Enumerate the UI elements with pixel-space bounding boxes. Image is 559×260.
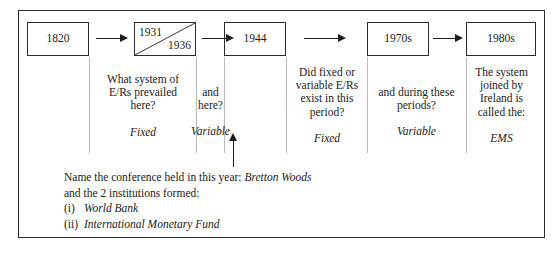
prompt-item-2: (ii)International Monetary Fund bbox=[64, 217, 484, 233]
column-1820-1931-question: What system of E/Rs prevailed here? bbox=[91, 73, 195, 113]
arrow-shaft bbox=[96, 38, 120, 39]
column-divider-1 bbox=[89, 57, 90, 153]
prompt-item-1-answer: World Bank bbox=[84, 202, 138, 214]
box-1931-1936: 1931 1936 bbox=[134, 22, 196, 56]
prompt-line-1-answer: Bretton Woods bbox=[244, 171, 311, 183]
box-1820-label: 1820 bbox=[28, 33, 88, 45]
prompt-item-1: (i)World Bank bbox=[64, 201, 484, 217]
worksheet-frame: 1820 1931 1936 1944 1970s 1980s bbox=[18, 10, 545, 238]
bretton-woods-prompt: Name the conference held in this year: B… bbox=[64, 170, 484, 232]
box-1944-label: 1944 bbox=[225, 33, 285, 45]
box-1820: 1820 bbox=[27, 22, 89, 56]
arrow-1970s-to-1980s bbox=[433, 34, 463, 43]
arrow-pointing-to-1944 bbox=[229, 133, 238, 167]
column-1931-1936-answer: Variable bbox=[189, 125, 232, 138]
arrow-1944-to-1970s bbox=[304, 34, 346, 43]
column-divider-4 bbox=[286, 57, 287, 153]
column-1820-1931: What system of E/Rs prevailed here? Fixe… bbox=[91, 73, 195, 139]
column-1944-1970-question: Did fixed or variable E/Rs exist in this… bbox=[288, 66, 366, 119]
arrow-head bbox=[120, 34, 128, 42]
column-1931-1936: and here? Variable bbox=[197, 86, 224, 139]
column-1944-1970-answer: Fixed bbox=[288, 132, 366, 145]
arrow-shaft bbox=[433, 38, 455, 39]
arrow-shaft bbox=[202, 38, 226, 39]
prompt-line-1: Name the conference held in this year: B… bbox=[64, 170, 484, 186]
column-1970s-answer: Variable bbox=[368, 125, 465, 138]
column-1970s-question: and during these periods? bbox=[368, 86, 465, 112]
arrow-head bbox=[338, 34, 346, 42]
box-1980s-label: 1980s bbox=[467, 33, 535, 45]
box-1970s-label: 1970s bbox=[368, 33, 428, 45]
column-1980s-question: The system joined by Ireland is called t… bbox=[468, 66, 535, 119]
arrow-head bbox=[226, 34, 234, 42]
prompt-item-1-marker: (i) bbox=[64, 201, 84, 217]
column-1980s-answer: EMS bbox=[468, 132, 535, 145]
box-1931-label: 1931 bbox=[139, 27, 162, 39]
column-divider-6 bbox=[466, 57, 467, 153]
box-1970s: 1970s bbox=[367, 22, 429, 56]
prompt-item-2-answer: International Monetary Fund bbox=[84, 218, 219, 230]
arrow-1820-to-1931 bbox=[96, 34, 128, 43]
prompt-item-2-marker: (ii) bbox=[64, 217, 84, 233]
column-1931-1936-question: and here? bbox=[197, 86, 224, 112]
arrow-shaft bbox=[304, 38, 338, 39]
prompt-line-2: and the 2 institutions formed: bbox=[64, 186, 484, 202]
prompt-line-1-label: Name the conference held in this year: bbox=[64, 171, 242, 183]
arrow-head bbox=[455, 34, 463, 42]
arrow-1936-to-1944 bbox=[202, 34, 234, 43]
column-1980s: The system joined by Ireland is called t… bbox=[468, 66, 535, 145]
column-1820-1931-answer: Fixed bbox=[91, 126, 195, 139]
arrow-shaft bbox=[233, 140, 234, 167]
box-1980s: 1980s bbox=[466, 22, 536, 56]
column-1944-1970: Did fixed or variable E/Rs exist in this… bbox=[288, 66, 366, 145]
column-1970s: and during these periods? Variable bbox=[368, 86, 465, 139]
box-1936-label: 1936 bbox=[168, 40, 191, 52]
